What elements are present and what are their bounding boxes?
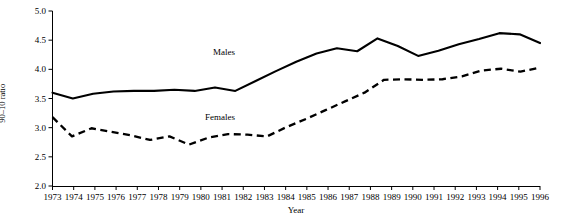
x-axis-tick-label: 1991 — [425, 193, 443, 202]
x-axis-tick-label: 1987 — [340, 193, 358, 202]
y-axis-ticks — [49, 11, 53, 186]
y-axis-tick-label: 2.0 — [18, 182, 46, 191]
axes — [49, 11, 541, 190]
x-axis-tick-label: 1979 — [171, 193, 189, 202]
chart-figure: 90–10 ratio Year 2.02.53.03.54.04.55.0 1… — [0, 0, 564, 223]
x-axis-tick-label: 1992 — [446, 193, 464, 202]
x-axis-tick-label: 1982 — [234, 193, 252, 202]
x-axis-tick-label: 1983 — [255, 193, 273, 202]
y-axis-tick-label: 3.0 — [18, 123, 46, 132]
x-axis-tick-label: 1990 — [404, 193, 422, 202]
x-axis-tick-label: 1980 — [192, 193, 210, 202]
x-axis-tick-label: 1974 — [65, 193, 83, 202]
x-axis-tick-label: 1973 — [44, 193, 62, 202]
y-axis-tick-label: 5.0 — [18, 7, 46, 16]
y-axis-tick-label: 4.5 — [18, 36, 46, 45]
x-axis-tick-label: 1978 — [149, 193, 167, 202]
x-axis-tick-label: 1977 — [128, 193, 146, 202]
x-axis-tick-label: 1984 — [277, 193, 295, 202]
x-axis-tick-label: 1988 — [361, 193, 379, 202]
y-axis-title: 90–10 ratio — [0, 84, 6, 123]
y-axis-tick-label: 2.5 — [18, 152, 46, 161]
y-axis-tick-label: 4.0 — [18, 65, 46, 74]
x-axis-tick-label: 1986 — [319, 193, 337, 202]
series-line-males — [53, 33, 541, 98]
y-axis-tick-label: 3.5 — [18, 94, 46, 103]
x-axis-tick-label: 1985 — [298, 193, 316, 202]
x-axis-tick-label: 1995 — [510, 193, 528, 202]
series-line-females — [53, 68, 541, 145]
chart-plot-area — [0, 0, 564, 223]
x-axis-tick-label: 1981 — [213, 193, 231, 202]
series-annotation-males: Males — [213, 48, 235, 57]
x-axis-tick-label: 1975 — [86, 193, 104, 202]
data-series-group — [53, 33, 541, 144]
x-axis-title: Year — [288, 206, 305, 215]
series-annotation-females: Females — [205, 113, 235, 122]
x-axis-tick-label: 1976 — [107, 193, 125, 202]
x-axis-tick-label: 1993 — [467, 193, 485, 202]
x-axis-tick-label: 1996 — [531, 193, 549, 202]
x-axis-tick-label: 1994 — [489, 193, 507, 202]
x-axis-tick-label: 1989 — [383, 193, 401, 202]
